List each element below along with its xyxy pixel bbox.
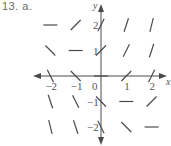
slope-segment bbox=[48, 95, 52, 108]
slope-segment bbox=[73, 95, 79, 108]
x-axis-arrow-left bbox=[33, 73, 41, 79]
y-tick-label: 2 bbox=[93, 19, 99, 31]
y-axis-arrow-up bbox=[98, 4, 104, 12]
x-tick-label: −1 bbox=[71, 80, 83, 92]
slope-segment bbox=[124, 18, 128, 31]
x-tick-label: 1 bbox=[124, 80, 130, 92]
slope-segment bbox=[73, 120, 77, 133]
x-tick-label: 2 bbox=[150, 80, 156, 92]
y-axis-label: y bbox=[92, 0, 98, 11]
slope-segment bbox=[123, 44, 129, 57]
x-tick-label: −2 bbox=[45, 80, 57, 92]
x-axis-label: x bbox=[165, 76, 171, 87]
y-tick-label: −2 bbox=[87, 121, 99, 133]
y-axis-arrow-down bbox=[98, 137, 104, 145]
slope-segment bbox=[150, 18, 153, 32]
x-tick-label: 0 bbox=[92, 80, 98, 92]
y-tick-label: 1 bbox=[93, 45, 99, 57]
slope-field-chart: xy−2−1012−2−112 bbox=[0, 0, 171, 146]
slope-segment bbox=[121, 122, 131, 132]
slope-segment bbox=[49, 120, 52, 134]
y-tick-label: −1 bbox=[87, 96, 99, 108]
slope-segment bbox=[149, 44, 153, 57]
slope-segment bbox=[45, 46, 55, 56]
slope-segment bbox=[71, 20, 81, 30]
tick-labels: xy−2−1012−2−112 bbox=[45, 0, 171, 133]
slope-segment bbox=[147, 97, 157, 107]
